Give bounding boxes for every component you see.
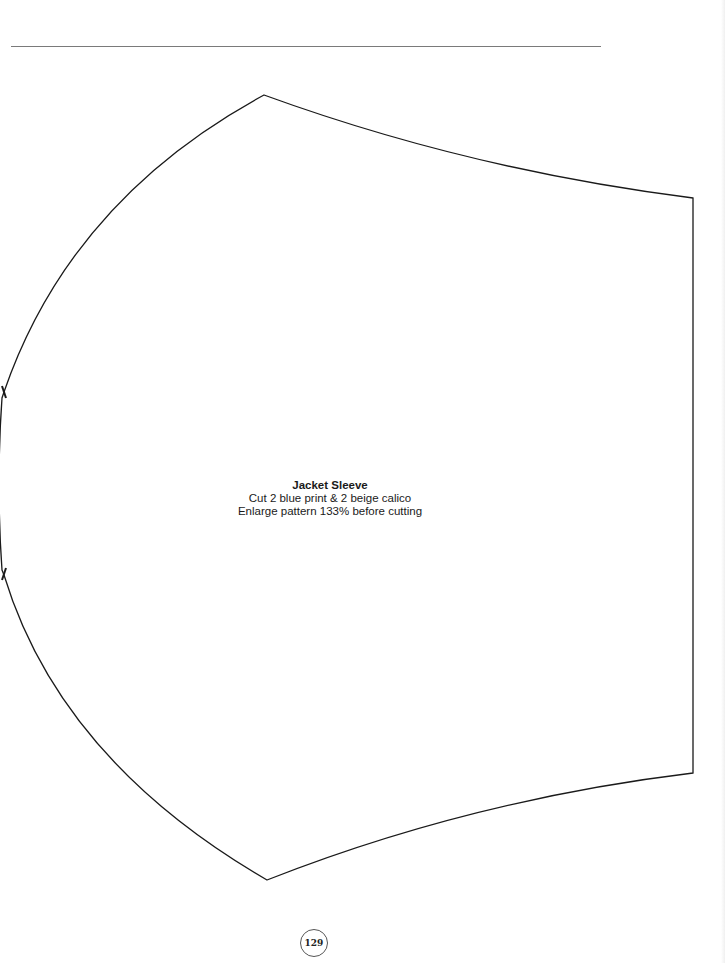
enlarge-instruction: Enlarge pattern 133% before cutting — [200, 505, 460, 518]
pattern-label: Jacket Sleeve Cut 2 blue print & 2 beige… — [200, 479, 460, 518]
pattern-title: Jacket Sleeve — [200, 479, 460, 492]
cutting-instruction: Cut 2 blue print & 2 beige calico — [200, 492, 460, 505]
page-number: 129 — [305, 938, 324, 948]
page-number-badge: 129 — [300, 929, 328, 957]
page-edge-shadow — [721, 0, 725, 963]
